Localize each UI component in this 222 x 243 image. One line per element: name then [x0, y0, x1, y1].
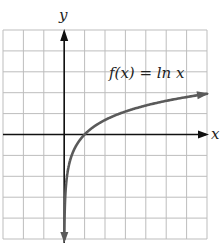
ln-graph: x y f(x) = ln x	[0, 0, 222, 243]
y-axis-label: y	[58, 6, 68, 24]
y-axis-arrowhead-icon	[60, 29, 68, 41]
x-axis-label: x	[211, 125, 220, 143]
ln-curve	[64, 94, 207, 239]
axes	[3, 29, 209, 243]
function-label: f(x) = ln x	[108, 64, 185, 82]
curve-arrowhead-down-icon	[60, 232, 68, 243]
